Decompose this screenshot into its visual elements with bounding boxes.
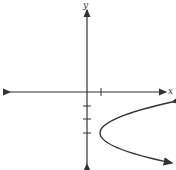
parabola-curve [100,102,172,163]
graph-svg [0,0,176,170]
x-axis-label: x [168,86,173,96]
coordinate-plane: y x [0,0,176,170]
y-axis-label: y [83,0,88,10]
